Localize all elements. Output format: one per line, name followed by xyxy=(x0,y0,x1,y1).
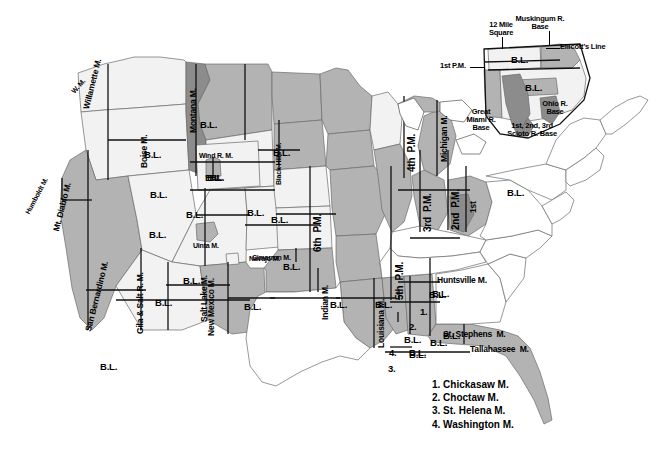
legend-item-washington: 4. Washington M. xyxy=(432,418,514,431)
label-wind-river-m: Wind R. M. xyxy=(199,152,233,160)
leader-ellicott xyxy=(546,48,560,49)
state-wisconsin xyxy=(370,92,402,150)
state-minnesota xyxy=(320,68,372,134)
label-uinta-m: Uinta M. xyxy=(193,242,219,250)
base-line-label: B.L. xyxy=(155,298,172,308)
label-tallahassee-m: Tallahassee M. xyxy=(470,345,529,354)
base-line-label-huntsville: B.L. xyxy=(429,290,446,300)
state-arkansas xyxy=(336,234,382,282)
label-fourth-pm: 4th P.M. xyxy=(407,134,418,172)
base-line-label: B.L. xyxy=(271,215,288,225)
base-line-label: B.L. xyxy=(100,362,117,372)
map-container: .st{stroke:#6b6b6b;stroke-width:0.7;stro… xyxy=(0,0,658,462)
state-oregon xyxy=(81,104,189,180)
base-line-label-washington: B.L. xyxy=(409,350,426,360)
marker-st-helena: 3. xyxy=(388,364,396,374)
base-line-label-wind-river: B.L. xyxy=(211,174,223,182)
base-line-label: B.L. xyxy=(144,150,161,160)
label-second-pm: 2nd P.M. xyxy=(451,189,462,230)
callout-first-pm-ohio: 1st P.M. xyxy=(440,62,466,70)
label-michigan-m: Michigan M. xyxy=(440,116,449,162)
legend-item-chickasaw: 1. Chickasaw M. xyxy=(432,378,514,391)
base-line-label: B.L. xyxy=(150,190,167,200)
base-line-label: B.L. xyxy=(244,302,261,312)
legend-item-choctaw: 2. Choctaw M. xyxy=(432,391,514,404)
label-third-pm: 3rd P.M. xyxy=(423,193,434,232)
marker-choctaw: 2. xyxy=(409,322,417,332)
label-montana-m: Montana M. xyxy=(189,88,198,133)
label-gila-salt-m: Gila & Salt R. M. xyxy=(136,272,145,334)
base-line-label: B.L. xyxy=(507,188,524,198)
base-line-label: B.L. xyxy=(200,120,217,130)
leader-first-pm xyxy=(470,67,484,68)
base-line-label-ohio-central: B.L. xyxy=(525,83,542,93)
label-fifth-pm: 5th P.M. xyxy=(395,262,406,300)
callout-scioto-base: 1st, 2nd, 3rd Scioto R. Base xyxy=(500,122,564,138)
base-line-label: B.L. xyxy=(183,276,200,286)
callout-ellicotts-line: Ellicott's Line xyxy=(560,43,605,51)
base-line-label: B.L. xyxy=(330,300,347,310)
base-line-label: B.L. xyxy=(443,331,460,341)
numbered-legend: 1. Chickasaw M. 2. Choctaw M. 3. St. Hel… xyxy=(432,378,514,431)
base-line-label: B.L. xyxy=(375,300,392,310)
leader-12-mile xyxy=(502,37,503,49)
label-first-pm-indiana: 1st xyxy=(469,201,478,213)
callout-ohio-river-base: Ohio R. Base xyxy=(538,100,572,116)
base-line-label: B.L. xyxy=(283,262,300,272)
base-line-label: B.L. xyxy=(149,230,166,240)
label-huntsville-m: Huntsville M. xyxy=(437,276,487,285)
state-iowa xyxy=(326,130,374,170)
callout-great-miami-base: Great Miami R. Base xyxy=(463,108,499,132)
base-line-label-choctaw: B.L. xyxy=(404,335,421,345)
label-sixth-pm: 6th P.M. xyxy=(313,214,324,252)
state-missouri xyxy=(330,166,386,236)
legend-item-st-helena: 3. St. Helena M. xyxy=(432,404,514,417)
base-line-label: B.L. xyxy=(247,208,264,218)
base-line-label: B.L. xyxy=(273,148,290,158)
label-indian-m: Indian M. xyxy=(321,285,330,320)
base-line-label: B.L. xyxy=(186,210,203,220)
marker-washington: 4. xyxy=(389,348,397,358)
callout-muskingum-base: Muskingum R. Base xyxy=(512,15,568,31)
base-line-label-ohio-north: B.L. xyxy=(511,55,528,65)
marker-chickasaw: 1. xyxy=(420,307,428,317)
state-north-dakota xyxy=(272,72,322,124)
label-new-mexico-m: New Mexico M. xyxy=(207,278,216,336)
leader-muskingum xyxy=(549,31,550,45)
